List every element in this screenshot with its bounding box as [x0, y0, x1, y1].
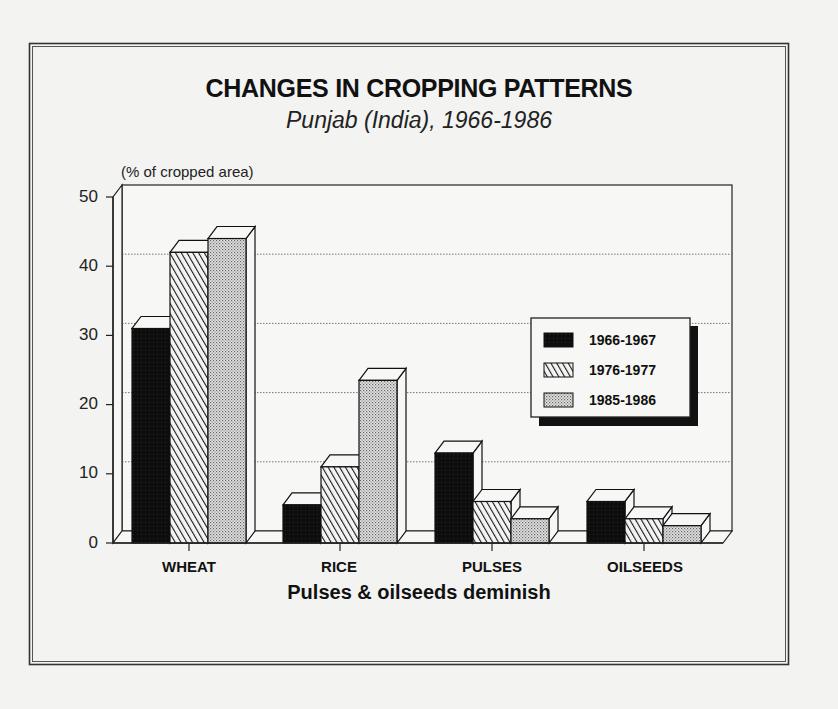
y-axis-label: (% of cropped area) — [121, 163, 254, 180]
chart-title: CHANGES IN CROPPING PATTERNS — [0, 74, 838, 103]
legend-swatch-1966 — [544, 333, 573, 347]
chart-subtitle: Punjab (India), 1966-1986 — [0, 107, 838, 134]
bar-top — [208, 227, 255, 239]
y-tick-20: 20 — [68, 394, 98, 414]
side-wall — [113, 185, 122, 543]
bar-front — [321, 467, 359, 543]
y-tick-50: 50 — [68, 187, 98, 207]
bar-side — [246, 227, 255, 543]
bar-front — [435, 453, 473, 543]
bar-front — [625, 519, 663, 543]
bar-top — [587, 489, 634, 501]
legend-label-1985: 1985-1986 — [589, 392, 656, 408]
bar-top — [359, 368, 406, 380]
legend-label-1966: 1966-1967 — [589, 332, 656, 348]
bar-front — [359, 380, 397, 543]
x-axis-caption: Pulses & oilseeds deminish — [0, 581, 838, 604]
bar-wheat-1985-1986 — [208, 227, 255, 543]
category-label-pulses: PULSES — [432, 558, 552, 575]
category-label-wheat: WHEAT — [129, 558, 249, 575]
bar-top — [625, 507, 672, 519]
bar-front — [587, 501, 625, 543]
bar-front — [663, 526, 701, 543]
bar-top — [663, 514, 710, 526]
category-label-oilseeds: OILSEEDS — [585, 558, 705, 575]
bar-front — [208, 239, 246, 543]
bar-oilseeds-1985-1986 — [663, 514, 710, 543]
bar-pulses-1985-1986 — [511, 507, 558, 543]
bar-top — [511, 507, 558, 519]
bar-front — [132, 328, 170, 543]
bar-rice-1985-1986 — [359, 368, 406, 543]
bar-front — [283, 505, 321, 543]
y-tick-0: 0 — [68, 533, 98, 553]
legend-label-1976: 1976-1977 — [589, 362, 656, 378]
y-tick-40: 40 — [68, 256, 98, 276]
bar-front — [511, 519, 549, 543]
category-label-rice: RICE — [279, 558, 399, 575]
bar-top — [435, 441, 482, 453]
bar-side — [397, 368, 406, 543]
legend-swatch-1985 — [544, 393, 573, 407]
y-tick-30: 30 — [68, 325, 98, 345]
y-tick-10: 10 — [68, 463, 98, 483]
bar-front — [170, 252, 208, 543]
bar-front — [473, 501, 511, 543]
legend-swatch-1976 — [544, 363, 573, 377]
bar-top — [473, 489, 520, 501]
